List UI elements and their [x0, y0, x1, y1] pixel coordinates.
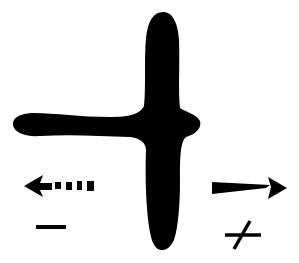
dashed-left-arrow-icon: [24, 175, 94, 197]
plus-sign-icon: [225, 221, 261, 249]
minus-sign-icon: [36, 225, 66, 229]
solid-right-arrow-icon: [212, 177, 287, 199]
diagram-canvas: [0, 0, 299, 263]
blob-shape: [13, 12, 200, 250]
